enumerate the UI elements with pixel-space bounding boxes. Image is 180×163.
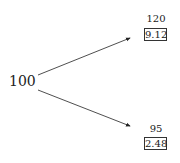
upper-node-value: 120 bbox=[141, 13, 171, 25]
root-node-value: 100 bbox=[9, 73, 36, 89]
lower-node-value: 95 bbox=[141, 123, 171, 135]
lower-node-box: 2.48 bbox=[144, 137, 167, 150]
arrow-down bbox=[38, 90, 130, 126]
upper-node-box: 9.12 bbox=[144, 28, 167, 41]
arrow-up bbox=[38, 38, 130, 75]
